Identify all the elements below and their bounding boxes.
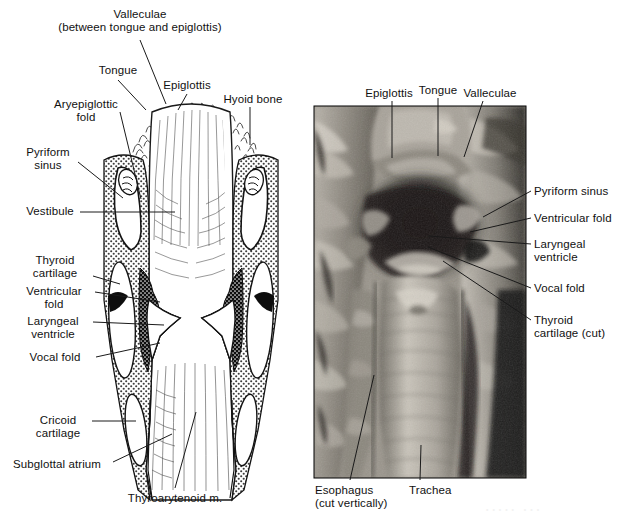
anatomy-figure: Valleculae(between tongue and epiglottis… [0,0,622,526]
label-line-1: Vocal fold [534,282,585,294]
label-tongue: Tongue [0,64,429,77]
leader-trachea [420,445,421,480]
leader-laryngeal-ventricle [428,236,531,244]
label-line-2: cartilage (cut) [534,327,605,339]
label-line-1: Tongue [99,64,137,76]
label-valleculae: Valleculae [179,87,622,100]
label-line-2: ventricle [31,328,75,340]
label-cricoid-cartilage: Cricoidcartilage [0,414,369,440]
label-line-1: Laryngeal [27,315,78,327]
label-line-2: (cut vertically) [315,497,388,509]
label-ventricular-fold: Ventricularfold [0,285,365,311]
scan-artifact-text: • • • • • • • • [486,506,540,513]
leader-ventricular-fold [470,218,531,232]
label-aryepiglottic-fold: Aryepiglotticfold [0,98,397,124]
leader-vocal-fold [428,247,531,288]
label-line-1: Thyroid [534,314,573,326]
label-line-1: Thyroarytenoid m. [128,492,222,504]
label-line-1: Trachea [409,484,451,496]
label-vocal-fold: Vocal fold [534,282,585,295]
label-line-1: Ventricular fold [534,212,612,224]
label-line-1: Valleculae [463,87,516,99]
label-thyroid-cartilage-cut: Thyroidcartilage (cut) [534,314,605,340]
label-line-2: ventricle [534,251,578,263]
label-line-2: fold [45,298,64,310]
label-line-1: Vocal fold [30,351,81,363]
label-line-1: Thyroid [35,254,74,266]
label-line-2: cartilage [36,427,80,439]
label-line-1: Valleculae [113,8,166,20]
leader-valleculae [464,101,483,157]
label-vocal-fold: Vocal fold [0,351,366,364]
label-line-2: (between tongue and epiglottis) [58,21,222,33]
label-line-1: Ventricular [26,285,81,297]
label-trachea: Trachea [409,484,451,497]
label-line-1: Esophagus [315,484,373,496]
label-subglottal-atrium: Subglottal atrium [0,458,368,471]
label-line-1: Subglottal atrium [13,458,101,470]
label-line-1: Laryngeal [534,238,585,250]
label-thyroid-cartilage: Thyroidcartilage [0,254,366,280]
label-valleculae: Valleculae(between tongue and epiglottis… [0,8,451,34]
label-laryngeal-ventricle: Laryngealventricle [534,238,585,264]
label-line-2: fold [77,111,96,123]
leader-thyroid-cartilage-cut [443,261,531,320]
label-line-1: Pyriform [26,146,70,158]
label-vestibule: Vestibule [0,205,361,218]
label-pyriform-sinus: Pyriformsinus [0,146,359,172]
leader-pyriform-sinus [483,191,531,217]
label-ventricular-fold: Ventricular fold [534,212,612,225]
label-pyriform-sinus: Pyriform sinus [534,185,608,198]
label-laryngeal-ventricle: Laryngealventricle [0,315,364,341]
label-line-2: sinus [34,159,61,171]
right-panel-leaders [350,98,531,480]
label-line-1: Pyriform sinus [534,185,608,197]
label-line-2: cartilage [33,267,77,279]
label-line-1: Cricoid [40,414,77,426]
label-esophagus-cut-vertically: Esophagus(cut vertically) [315,484,388,510]
label-line-1: Vestibule [26,205,74,217]
